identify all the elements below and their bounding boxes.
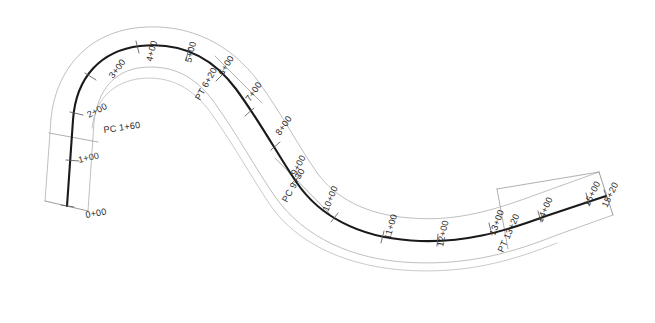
- station-label-5-00: 5+00: [183, 40, 198, 63]
- station-label-10-00: 10+00: [321, 184, 340, 212]
- station-label-12-00: 12+00: [435, 219, 450, 247]
- tick-2-00: [70, 112, 83, 115]
- offset-arc-curve-1: [92, 78, 557, 271]
- station-label-3-00: 3+00: [107, 57, 128, 80]
- station-label-8-00: 8+00: [273, 114, 293, 137]
- station-tick-marks: [61, 41, 608, 246]
- station-label-2-00: 2+00: [85, 101, 108, 120]
- right-of-way-lines: [45, 27, 613, 263]
- tick-1-00: [66, 160, 79, 161]
- station-offset-arc: [92, 78, 557, 271]
- radial-line-pc-1-60: [49, 133, 98, 142]
- station-label-4-00: 4+00: [144, 39, 159, 62]
- station-label-1-00: 1+00: [77, 150, 100, 165]
- station-label-7-00: 7+00: [243, 80, 263, 103]
- roadway-centerline: [67, 45, 606, 241]
- station-label-14-00: 14+00: [535, 195, 555, 223]
- centerline-group: [67, 45, 606, 241]
- curve-point-label-pc-1-60: PC 1+60: [103, 120, 141, 135]
- station-label-group: 0+001+002+003+004+005+006+007+008+009+00…: [77, 39, 620, 247]
- alignment-drawing-canvas: 0+001+002+003+004+005+006+007+008+009+00…: [0, 0, 655, 323]
- tangent-edge-right: [497, 172, 599, 189]
- curve-point-label-group: PC 1+60PT 6+20PC 9+30PT 13+20: [103, 66, 522, 254]
- row-line-right: [88, 67, 613, 263]
- roadway-alignment-drawing: 0+001+002+003+004+005+006+007+008+009+00…: [0, 0, 655, 323]
- station-label-11-00: 11+00: [382, 213, 399, 241]
